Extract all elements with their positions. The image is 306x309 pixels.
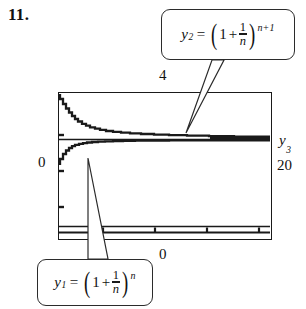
y-axis-max-label: 4 [159, 68, 167, 83]
formula-y1-exponent: n [130, 271, 135, 281]
formula-y1-numerator: 1 [112, 269, 120, 282]
formula-y1-denominator: n [112, 283, 120, 296]
graph-svg [59, 93, 270, 238]
problem-number: 11. [8, 6, 29, 23]
series-y1-curve [60, 140, 270, 165]
formula-y2-equals: = [197, 27, 205, 42]
formula-y1-open-paren: ( [84, 273, 90, 292]
x-axis-min-label: 0 [159, 247, 167, 262]
series-y3-label-base: y [279, 132, 286, 148]
formula-y2-open-paren: ( [211, 25, 217, 44]
formula-y2-denominator: n [239, 35, 247, 48]
y-axis-min-label: 0 [38, 155, 46, 170]
formula-y2-fraction: 1 n [239, 21, 247, 48]
formula-y2-close-paren: ) [249, 25, 255, 44]
y-axis-ticks [59, 135, 64, 207]
formula-y2-plus: + [229, 27, 237, 42]
series-y2-curve [60, 94, 270, 137]
callout-box-y2: y2 = ( 1 + 1 n )n+1 [161, 9, 295, 60]
x-axis-line [59, 228, 270, 233]
graph-plot-area [59, 93, 271, 239]
formula-y1-plus: + [102, 275, 110, 290]
formula-y1-fraction: 1 n [112, 269, 120, 296]
formula-y1-lhs: y [54, 275, 61, 290]
formula-y2-lhs-subscript: 2 [188, 33, 193, 43]
series-y3-label-subscript: 3 [286, 145, 291, 155]
formula-y1-equals: = [70, 275, 78, 290]
formula-y2-exponent: n+1 [257, 23, 274, 33]
formula-y1-lhs-subscript: 1 [62, 281, 67, 291]
formula-y2-one: 1 [219, 27, 227, 42]
formula-y1-one: 1 [92, 275, 100, 290]
formula-y1: y1 = ( 1 + 1 n )n [54, 269, 135, 296]
callout-box-y1: y1 = ( 1 + 1 n )n [37, 259, 153, 306]
formula-y2: y2 = ( 1 + 1 n )n+1 [181, 21, 274, 48]
graph-plot-frame [58, 92, 272, 240]
series-y3-label: y3 [279, 133, 290, 152]
formula-y1-close-paren: ) [122, 273, 128, 292]
formula-y2-numerator: 1 [239, 21, 247, 34]
x-axis-max-label: 20 [277, 158, 292, 173]
series-converged-band [210, 136, 270, 141]
formula-y2-lhs: y [181, 27, 188, 42]
